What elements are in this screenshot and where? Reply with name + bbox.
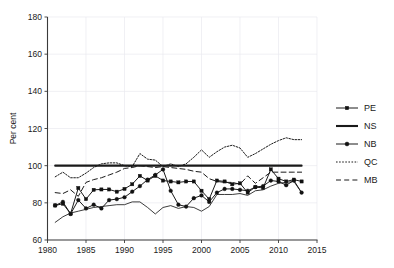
- data-point: [115, 197, 119, 201]
- x-tick-label: 2010: [269, 245, 288, 255]
- gridlines: [48, 17, 318, 240]
- y-tick-label: 60: [33, 235, 43, 245]
- data-point: [138, 184, 142, 188]
- chart-figure: 6080100120140160180198019851990199520002…: [0, 0, 394, 268]
- data-point: [223, 187, 227, 191]
- data-point: [238, 188, 242, 192]
- series-group: [53, 138, 303, 223]
- y-tick-label: 140: [28, 86, 42, 96]
- x-tick-label: 2015: [308, 245, 327, 255]
- y-tick-label: 80: [33, 198, 43, 208]
- data-point: [153, 173, 157, 177]
- y-tick-label: 180: [28, 12, 42, 22]
- data-point: [230, 187, 234, 191]
- data-point: [192, 180, 195, 183]
- data-point: [284, 183, 288, 187]
- data-point: [254, 185, 258, 189]
- x-tick-label: 1995: [154, 245, 173, 255]
- y-tick-label: 120: [28, 124, 42, 134]
- data-point: [76, 198, 80, 202]
- legend-item-qc[interactable]: QC: [336, 157, 378, 167]
- legend-label-pe: PE: [364, 103, 376, 113]
- data-point: [92, 203, 96, 207]
- data-point: [138, 174, 141, 177]
- data-point: [269, 168, 272, 171]
- line-chart-svg: 6080100120140160180198019851990199520002…: [0, 0, 394, 268]
- data-point: [231, 183, 234, 186]
- y-tick-label: 160: [28, 49, 42, 59]
- data-point: [115, 190, 118, 193]
- legend-item-pe[interactable]: PE: [336, 103, 376, 113]
- data-point: [246, 189, 250, 193]
- x-tick-label: 1980: [38, 245, 57, 255]
- x-tick-label: 1985: [77, 245, 96, 255]
- data-point: [177, 181, 180, 184]
- data-point: [131, 183, 134, 186]
- legend-item-mb[interactable]: MB: [336, 175, 378, 185]
- legend-item-nb[interactable]: NB: [336, 139, 377, 149]
- legend-marker-dot: [345, 142, 349, 146]
- data-point: [123, 195, 127, 199]
- data-point: [53, 204, 57, 208]
- x-tick-label: 2005: [231, 245, 250, 255]
- data-point: [300, 180, 303, 183]
- data-point: [207, 200, 211, 204]
- y-tick-label: 100: [28, 161, 42, 171]
- data-point: [161, 168, 165, 172]
- data-point: [84, 198, 87, 201]
- data-point: [77, 186, 80, 189]
- x-tick-label: 1990: [115, 245, 134, 255]
- x-tick-label: 2000: [192, 245, 211, 255]
- data-point: [92, 188, 95, 191]
- data-point: [261, 184, 265, 188]
- data-point: [61, 200, 65, 204]
- data-point: [192, 196, 196, 200]
- data-point: [200, 194, 204, 198]
- legend: PENSNBQCMB: [336, 103, 378, 185]
- data-point: [185, 180, 188, 183]
- data-point: [177, 203, 181, 207]
- legend-label-ns: NS: [364, 121, 377, 131]
- legend-label-qc: QC: [364, 157, 378, 167]
- data-point: [161, 179, 164, 182]
- data-point: [100, 188, 103, 191]
- legend-label-nb: NB: [364, 139, 377, 149]
- data-point: [169, 180, 172, 183]
- data-point: [123, 187, 126, 190]
- series-line-qc: [55, 138, 301, 178]
- legend-marker-square: [345, 106, 348, 109]
- series-qc: [55, 138, 301, 178]
- data-point: [130, 190, 134, 194]
- data-point: [215, 191, 219, 195]
- data-point: [169, 189, 173, 193]
- data-point: [107, 198, 111, 202]
- legend-item-ns[interactable]: NS: [336, 121, 377, 131]
- axes: 6080100120140160180198019851990199520002…: [8, 12, 327, 255]
- data-point: [146, 178, 150, 182]
- data-point: [200, 189, 203, 192]
- y-axis-title: Per cent: [8, 112, 18, 144]
- legend-label-mb: MB: [364, 175, 378, 185]
- data-point: [269, 179, 273, 183]
- data-point: [108, 188, 111, 191]
